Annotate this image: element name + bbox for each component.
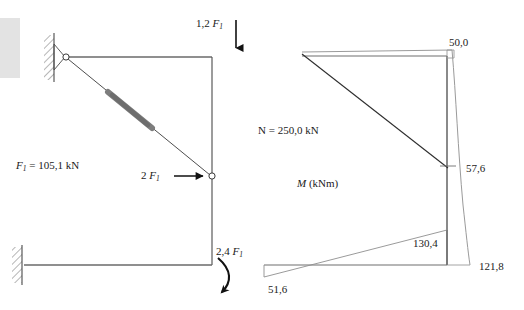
moment-value-mid-right: 57,6 [466,163,485,174]
moment-unit: (kNm) [306,177,338,189]
moment-top-ordinate [302,50,452,52]
moment-value-bottom-right: 121,8 [479,261,504,272]
figure-canvas [0,0,524,310]
hinge-mid-right [209,173,215,179]
base-moment-sub: 1 [239,250,243,259]
pin-support-top-left [44,33,65,82]
moment-diagram [264,50,470,277]
moment-diagonal-top [302,54,448,168]
top-load-prefix: 1,2 [196,17,213,29]
moment-value-beam: 130,4 [413,238,438,249]
label-moment-unit: M (kNm) [297,178,338,189]
fixed-support-bottom-left [12,245,22,285]
mid-load-prefix: 2 [141,169,149,181]
frame-structure [12,20,236,292]
f1-equals: = 105,1 kN [26,159,79,171]
mid-load-sub: 1 [156,174,160,183]
hinge-top-left [63,54,69,60]
brace-section-marker [108,92,152,128]
label-f1-value: F1 = 105,1 kN [16,160,79,173]
moment-symbol: M [297,177,306,189]
moment-value-top-right: 50,0 [449,37,468,48]
wall-hatch-top [44,35,54,80]
label-axial-force: N = 250,0 kN [258,125,319,136]
top-load-sub: 1 [219,22,223,31]
label-top-load: 1,2 F1 [196,18,223,31]
label-base-moment: 2,4 F1 [216,246,243,259]
engineering-figure: 1,2 F1 F1 = 105,1 kN 2 F1 2,4 F1 N = 250… [0,0,524,310]
f1-symbol: F [16,159,23,171]
label-mid-load: 2 F1 [141,170,160,183]
mid-load-symbol: F [149,169,156,181]
moment-column-curve [452,50,470,265]
moment-value-bottom-left: 51,6 [268,284,287,295]
base-moment-arrow [218,258,229,292]
base-moment-prefix: 2,4 [216,245,233,257]
wall-hatch-bottom [12,247,22,283]
